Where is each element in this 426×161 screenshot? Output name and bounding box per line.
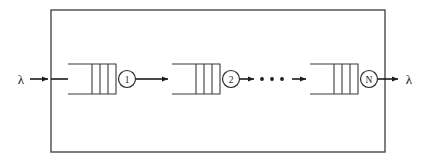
ellipsis-dot-1 — [260, 77, 264, 81]
server-label-2: 2 — [229, 75, 234, 85]
queue-stage-2: 2 — [172, 64, 254, 94]
queueing-network-figure: 1 2 N — [0, 0, 426, 161]
departure-rate-label: λ — [406, 72, 413, 87]
queue-stage-n: N — [310, 64, 378, 94]
ellipsis-dot-2 — [270, 77, 274, 81]
diagram-canvas: 1 2 N — [0, 0, 426, 161]
arrival-rate-label: λ — [18, 72, 25, 87]
ellipsis-dot-3 — [280, 77, 284, 81]
continuation-ellipsis — [260, 77, 284, 81]
queue-stage-1: 1 — [68, 64, 168, 94]
server-label-1: 1 — [125, 75, 130, 85]
server-label-n: N — [366, 75, 373, 85]
